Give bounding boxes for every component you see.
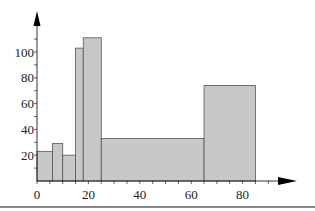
histogram-bar bbox=[101, 138, 204, 181]
x-tick-label: 40 bbox=[133, 187, 146, 202]
y-tick-label: 80 bbox=[21, 70, 34, 85]
x-tick-label: 60 bbox=[185, 187, 198, 202]
y-tick-label: 40 bbox=[21, 122, 34, 137]
bars-group bbox=[37, 38, 255, 181]
x-tick-label: 80 bbox=[236, 187, 249, 202]
y-tick-label: 60 bbox=[21, 96, 34, 111]
histogram-bar bbox=[204, 86, 255, 181]
x-tick-label: 20 bbox=[82, 187, 95, 202]
x-tick-label: 0 bbox=[34, 187, 41, 202]
bottom-divider bbox=[0, 206, 315, 208]
histogram-chart: 02040608020406080100 bbox=[0, 0, 315, 211]
y-tick-label: 100 bbox=[15, 45, 35, 60]
y-axis-arrow-icon bbox=[34, 11, 41, 26]
histogram-bar bbox=[76, 48, 84, 181]
histogram-bar bbox=[83, 38, 101, 181]
y-tick-label: 20 bbox=[21, 148, 34, 163]
histogram-bar bbox=[63, 155, 76, 181]
x-axis-arrow-icon bbox=[278, 177, 297, 185]
histogram-bar bbox=[52, 144, 62, 181]
histogram-bar bbox=[37, 151, 52, 181]
